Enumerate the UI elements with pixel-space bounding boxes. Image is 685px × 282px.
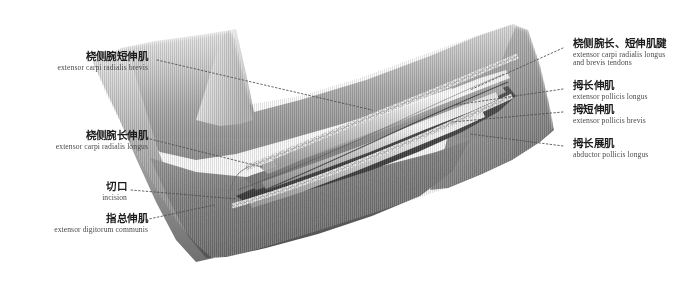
- label-la: extensor carpi radialis longus: [56, 143, 148, 152]
- label-extensor-pollicis-brevis: 拇短伸肌 extensor pollicis brevis: [573, 104, 646, 125]
- label-ecrl-ecrb-tendons: 桡侧腕长、短伸肌腱 extensor carpi radialis longus…: [573, 38, 667, 68]
- label-extensor-digitorum-communis: 指总伸肌 extensor digitorum communis: [54, 213, 148, 234]
- label-la: incision: [102, 194, 127, 203]
- label-abductor-pollicis-longus: 拇长展肌 abductor pollicis longus: [573, 138, 648, 159]
- label-cn: 桡侧腕长伸肌: [56, 130, 148, 142]
- label-incision: 切口 incision: [102, 181, 127, 202]
- label-la: extensor pollicis brevis: [573, 117, 646, 126]
- label-cn: 切口: [102, 181, 127, 193]
- label-cn: 桡侧腕长、短伸肌腱: [573, 38, 667, 50]
- label-la: extensor pollicis longus: [573, 93, 648, 102]
- label-la: abductor pollicis longus: [573, 151, 648, 160]
- label-cn: 拇长展肌: [573, 138, 648, 150]
- label-la: extensor carpi radialis longus and brevi…: [573, 51, 667, 68]
- label-cn: 桡侧腕短伸肌: [57, 51, 148, 63]
- label-cn: 指总伸肌: [54, 213, 148, 225]
- label-la: extensor carpi radialis brevis: [57, 64, 148, 73]
- label-la: extensor digitorum communis: [54, 226, 148, 235]
- anatomy-figure: 桡侧腕短伸肌 extensor carpi radialis brevis 桡侧…: [0, 0, 685, 282]
- label-cn: 拇长伸肌: [573, 80, 648, 92]
- engraving-hatch: [80, 20, 580, 270]
- label-extensor-pollicis-longus: 拇长伸肌 extensor pollicis longus: [573, 80, 648, 101]
- label-cn: 拇短伸肌: [573, 104, 646, 116]
- label-extensor-carpi-radialis-longus: 桡侧腕长伸肌 extensor carpi radialis longus: [56, 130, 148, 151]
- label-extensor-carpi-radialis-brevis: 桡侧腕短伸肌 extensor carpi radialis brevis: [57, 51, 148, 72]
